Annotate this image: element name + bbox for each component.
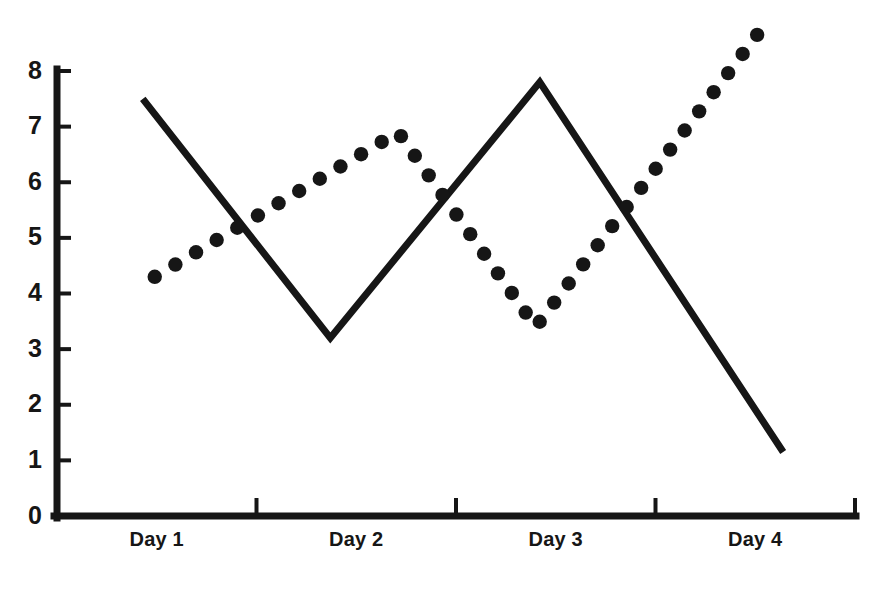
series-data-dot	[634, 181, 648, 195]
series-data-dot	[491, 266, 505, 280]
y-axis-tick-label: 7	[28, 111, 42, 139]
chart-canvas: Day 1Day 2Day 3Day 4 012345678	[0, 0, 892, 599]
series-data-dot	[394, 129, 408, 143]
y-axis-tick-label: 1	[28, 445, 42, 473]
series-data-dot	[505, 286, 519, 300]
series-data-dot	[375, 135, 389, 149]
series-data-dot	[230, 221, 244, 235]
series-data-dot	[435, 188, 449, 202]
series-data-dot	[677, 123, 691, 137]
series-solid-line	[143, 82, 783, 452]
y-axis-tick-label: 5	[28, 222, 42, 250]
series-data-dot	[408, 149, 422, 163]
series-data-dot	[209, 233, 223, 247]
series-data-dot	[663, 142, 677, 156]
series-data-dot	[648, 162, 662, 176]
line-chart: Day 1Day 2Day 3Day 4 012345678	[0, 0, 892, 599]
series-data-dot	[547, 295, 561, 309]
series-data-dot	[189, 245, 203, 259]
series-data-dot	[735, 47, 749, 61]
y-axis-tick-label: 3	[28, 334, 42, 362]
series-data-dot	[518, 305, 532, 319]
y-axis-tick-label: 8	[28, 56, 42, 84]
series-data-dot	[333, 159, 347, 173]
series-data-dot	[561, 276, 575, 290]
series-data-dot	[532, 315, 546, 329]
series-data-dot	[477, 247, 491, 261]
series-data-dot	[576, 257, 590, 271]
series-data-dot	[692, 104, 706, 118]
y-axis-tick-label: 0	[28, 501, 42, 529]
series-data-dot	[271, 196, 285, 210]
y-axis-label-group: 012345678	[28, 56, 42, 529]
series-data-dot	[619, 200, 633, 214]
x-axis-tick-label: Day 2	[329, 528, 383, 550]
x-axis-tick-label: Day 4	[728, 528, 783, 550]
y-axis-tick-label: 4	[28, 278, 42, 306]
series-data-dot	[292, 184, 306, 198]
series-data-dot	[354, 147, 368, 161]
series-data-dot	[463, 227, 477, 241]
x-axis-tick-label: Day 3	[529, 528, 583, 550]
series-data-dot	[168, 257, 182, 271]
x-axis-tick-label: Day 1	[130, 528, 184, 550]
series-data-dot	[421, 168, 435, 182]
series-data-dot	[148, 270, 162, 284]
series-data-dot	[590, 238, 604, 252]
series-data-dot	[721, 66, 735, 80]
series-data-dot	[449, 207, 463, 221]
y-axis-tick-label: 6	[28, 167, 42, 195]
series-data-dot	[605, 219, 619, 233]
y-axis-tick-label: 2	[28, 389, 42, 417]
x-axis-label-group: Day 1Day 2Day 3Day 4	[130, 528, 784, 550]
series-data-dot	[706, 85, 720, 99]
series-data-dot	[313, 172, 327, 186]
series-data-dot	[251, 208, 265, 222]
series-data-dot	[750, 28, 764, 42]
